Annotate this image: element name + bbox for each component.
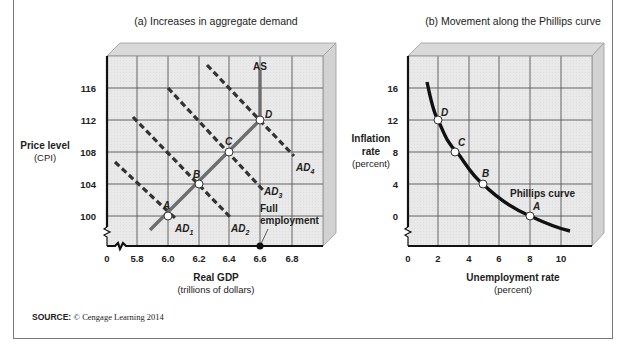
svg-text:112: 112	[81, 115, 96, 126]
label-c-b: C	[458, 137, 466, 148]
x-axis-sublabel-a: (trillions of dollars)	[177, 284, 254, 295]
point-c	[225, 148, 233, 156]
full-employment-label-1: Full	[260, 203, 278, 214]
svg-text:100: 100	[80, 211, 96, 222]
svg-text:104: 104	[80, 179, 97, 190]
box-side-face-b	[592, 43, 604, 246]
x-ticks-b: 0 2 4 6 8 10	[405, 253, 566, 264]
y-axis-sublabel-a: (CPI)	[34, 152, 56, 163]
svg-text:6.4: 6.4	[222, 253, 236, 264]
svg-text:108: 108	[80, 147, 96, 158]
y-ticks-b: 0 4 8 12 16	[387, 83, 398, 222]
svg-text:6.2: 6.2	[192, 253, 205, 264]
label-d-b: D	[441, 107, 448, 118]
svg-text:2: 2	[435, 253, 440, 264]
source-label: SOURCE:	[32, 312, 71, 322]
svg-text:6.0: 6.0	[161, 253, 174, 264]
point-b	[195, 180, 203, 188]
panel-a: (a) Increases in aggregate demand	[20, 15, 336, 295]
svg-text:12: 12	[387, 115, 398, 126]
panel-b: (b) Movement along the Phillips curve	[352, 15, 604, 295]
point-b-b	[479, 180, 487, 188]
svg-text:6.6: 6.6	[253, 253, 266, 264]
y-axis-label-a: Price level	[20, 140, 70, 151]
svg-text:0: 0	[405, 253, 410, 264]
point-a-b	[526, 212, 534, 220]
plot-area-b	[408, 56, 592, 246]
label-b: B	[193, 169, 200, 180]
source-note: SOURCE: © Cengage Learning 2014	[32, 312, 164, 322]
svg-text:4: 4	[393, 179, 399, 190]
box-top-face-b	[408, 43, 604, 56]
svg-text:16: 16	[387, 83, 398, 94]
svg-text:6.8: 6.8	[285, 253, 298, 264]
y-axis-label-b-1: Inflation	[352, 133, 391, 144]
point-d	[256, 116, 264, 124]
box-side-face	[323, 43, 336, 246]
x-ticks-a: 0 5.8 6.0 6.2 6.4 6.6 6.8	[104, 253, 298, 264]
as-label: AS	[253, 61, 267, 72]
svg-text:8: 8	[393, 147, 398, 158]
phillips-curve-label: Phillips curve	[510, 188, 575, 199]
panel-b-title: (b) Movement along the Phillips curve	[425, 15, 601, 27]
svg-text:0: 0	[104, 253, 109, 264]
label-b-b: B	[482, 168, 489, 179]
label-a-b: A	[532, 201, 540, 212]
svg-text:5.8: 5.8	[130, 253, 143, 264]
x-axis-label-a: Real GDP	[193, 272, 239, 283]
label-c: C	[225, 136, 233, 147]
label-a: A	[162, 200, 170, 211]
y-axis-label-b-2: rate	[362, 146, 381, 157]
panel-a-title: (a) Increases in aggregate demand	[134, 15, 298, 27]
figure-svg: (a) Increases in aggregate demand	[0, 0, 629, 353]
source-text: © Cengage Learning 2014	[74, 312, 164, 322]
svg-text:8: 8	[527, 253, 532, 264]
point-c-b	[451, 148, 459, 156]
x-axis-label-b: Unemployment rate	[466, 272, 560, 283]
full-employment-label-2: employment	[260, 215, 320, 226]
svg-text:4: 4	[466, 253, 472, 264]
svg-text:6: 6	[496, 253, 501, 264]
x-axis-sublabel-b: (percent)	[494, 284, 532, 295]
point-a	[164, 212, 172, 220]
y-ticks-a: 100 104 108 112 116	[80, 83, 97, 222]
full-employment-dot	[257, 243, 264, 250]
box-top-face	[107, 43, 336, 56]
svg-text:116: 116	[81, 83, 96, 94]
y-axis-sublabel-b: (percent)	[352, 158, 390, 169]
svg-text:10: 10	[556, 253, 567, 264]
svg-text:0: 0	[393, 211, 398, 222]
label-d: D	[265, 109, 272, 120]
